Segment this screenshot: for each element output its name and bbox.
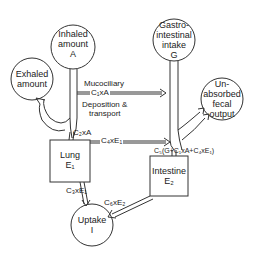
transport-label: transport bbox=[89, 109, 121, 118]
lung-label-2: E₁ bbox=[50, 160, 90, 170]
unabsorbed-label-4: output bbox=[198, 109, 246, 119]
gastro-label-1: Gastro- bbox=[150, 20, 198, 30]
intestine-label-2: E₂ bbox=[148, 176, 190, 186]
uptake-label-2: I bbox=[70, 225, 114, 235]
deposition-label: Deposition & bbox=[82, 100, 127, 109]
c6e2-label: C₆xE₂ bbox=[104, 198, 125, 207]
inhaled-label-2: amount bbox=[51, 39, 95, 49]
mucociliary-label: Mucociliary bbox=[84, 79, 124, 88]
exhaled-amount-node: Exhaled amount bbox=[11, 69, 53, 89]
lung-node: Lung E₁ bbox=[50, 150, 90, 170]
gastro-label-4: G bbox=[150, 50, 198, 60]
uptake-label-1: Uptake bbox=[70, 215, 114, 225]
inhaled-amount-node: Inhaled amount A bbox=[51, 29, 95, 59]
c2a-label: C₂xA bbox=[73, 128, 91, 137]
gastrointestinal-intake-node: Gastro- intestinal intake G bbox=[150, 20, 198, 60]
flow-diagram bbox=[0, 0, 258, 264]
intestine-node: Intestine E₂ bbox=[148, 166, 190, 186]
unabsorbed-label-3: fecal bbox=[198, 99, 246, 109]
unabsorbed-label-2: absorbed bbox=[198, 89, 246, 99]
uptake-node: Uptake I bbox=[70, 215, 114, 235]
unabsorbed-fecal-output-node: Un- absorbed fecal output bbox=[198, 79, 246, 119]
lung-label-1: Lung bbox=[50, 150, 90, 160]
inhaled-label-1: Inhaled bbox=[51, 29, 95, 39]
c5-label: C₅(G+C₁xA+C₄xE₁) bbox=[154, 146, 214, 155]
gastro-label-3: intake bbox=[150, 40, 198, 50]
inhaled-label-3: A bbox=[51, 49, 95, 59]
exhaled-label-2: amount bbox=[11, 79, 53, 89]
unabsorbed-label-1: Un- bbox=[198, 79, 246, 89]
gastro-label-2: intestinal bbox=[150, 30, 198, 40]
c4e1-label: C₄xE₁ bbox=[100, 136, 123, 145]
intestine-label-1: Intestine bbox=[148, 166, 190, 176]
c3e1-label: C₃xE₁ bbox=[66, 186, 87, 195]
exhaled-label-1: Exhaled bbox=[11, 69, 53, 79]
c1a-label: C₁xA bbox=[90, 88, 110, 97]
